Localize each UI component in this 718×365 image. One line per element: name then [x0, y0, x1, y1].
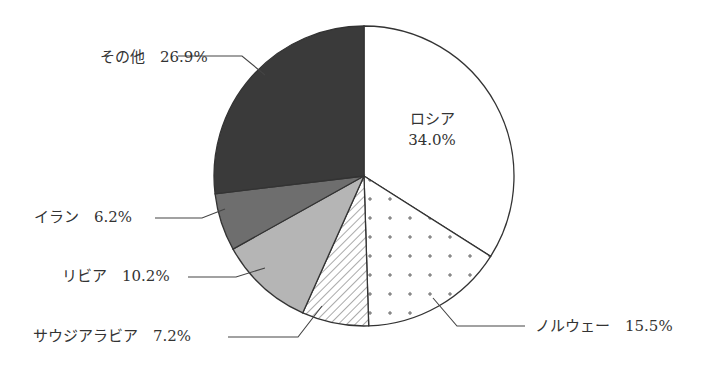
label-russia-name: ロシア	[410, 110, 455, 128]
label-iran: イラン 6.2%	[34, 208, 132, 226]
label-saudi-arabia: サウジアラビア 7.2%	[33, 327, 191, 345]
pie-chart: その他 26.9% イラン 6.2% リビア 10.2% サウジアラビア 7.2…	[0, 0, 718, 365]
label-other: その他 26.9%	[100, 48, 208, 66]
pie-slice-5	[214, 26, 364, 194]
label-russia-value: 34.0%	[408, 131, 456, 149]
label-norway: ノルウェー 15.5%	[535, 317, 673, 335]
pie-slices	[214, 26, 514, 326]
label-libya: リビア 10.2%	[62, 267, 170, 285]
